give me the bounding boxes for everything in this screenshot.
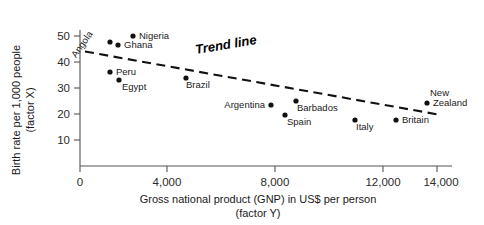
- data-point-label-angola: Angola: [69, 28, 95, 59]
- data-point: [115, 42, 120, 47]
- data-point-label-spain: Spain: [287, 116, 311, 127]
- y-axis-title-line2: (factor X): [24, 87, 36, 132]
- data-point: [107, 39, 112, 44]
- data-point-label-new-zealand-line2: Zealand: [433, 97, 467, 108]
- y-ticklabel-50: 50: [57, 30, 70, 42]
- data-point-label-egypt: Egypt: [122, 81, 147, 92]
- y-ticklabel-30: 30: [57, 82, 70, 94]
- x-ticklabel-12000: 12,000: [365, 176, 400, 188]
- axes: [80, 30, 452, 166]
- data-point: [116, 77, 121, 82]
- x-axis-title-line2: (factor Y): [235, 207, 280, 219]
- x-ticklabel-8000: 8,000: [261, 176, 290, 188]
- data-point: [130, 33, 135, 38]
- x-axis-ticks: 0 4,000 8,000 12,000 14,000: [77, 166, 459, 188]
- x-ticklabel-0: 0: [77, 176, 83, 188]
- data-point-label-italy: Italy: [356, 121, 374, 132]
- y-ticklabel-20: 20: [57, 108, 70, 120]
- trend-line-label: Trend line: [194, 32, 258, 57]
- x-ticklabel-14000: 14,000: [423, 176, 458, 188]
- data-point-label-barbados: Barbados: [297, 102, 338, 113]
- data-point: [393, 117, 398, 122]
- data-point: [268, 102, 273, 107]
- data-point-label-peru: Peru: [116, 66, 136, 77]
- data-point-label-britain: Britain: [402, 114, 429, 125]
- data-point-label-brazil: Brazil: [186, 79, 210, 90]
- y-ticklabel-10: 10: [57, 134, 70, 146]
- plot-area: 50 40 30 20 10 0 4,000 8,000 12,000 14,0…: [0, 0, 484, 225]
- x-axis-title: Gross national product (GNP) in US$ per …: [140, 193, 377, 219]
- y-axis-title: Birth rate per 1,000 people (factor X): [10, 45, 36, 175]
- y-ticklabel-40: 40: [57, 56, 70, 68]
- data-points: [107, 33, 429, 122]
- y-axis-title-line1: Birth rate per 1,000 people: [10, 45, 22, 175]
- x-ticklabel-4000: 4,000: [153, 176, 182, 188]
- data-point: [107, 69, 112, 74]
- data-point-label-argentina: Argentina: [224, 99, 265, 110]
- x-axis-title-line1: Gross national product (GNP) in US$ per …: [140, 193, 377, 205]
- data-point-label-nigeria: Nigeria: [139, 30, 170, 41]
- scatter-chart: 50 40 30 20 10 0 4,000 8,000 12,000 14,0…: [0, 0, 484, 225]
- data-point-labels: Angola Ghana Nigeria Peru Egypt Brazil A…: [69, 28, 468, 132]
- data-point: [424, 100, 429, 105]
